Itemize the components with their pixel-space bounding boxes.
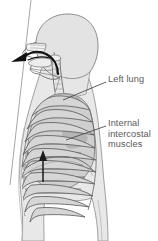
head-and-neck-profile: [23, 14, 98, 97]
label-internal-intercostal-muscles: Internal intercostal muscles: [108, 118, 151, 150]
label-line-3: muscles: [108, 139, 151, 150]
label-line-1: Internal: [108, 118, 151, 129]
label-line-2: intercostal: [108, 129, 151, 140]
anatomy-figure: Left lung Internal intercostal muscles: [0, 0, 158, 241]
label-left-lung: Left lung: [108, 74, 144, 85]
